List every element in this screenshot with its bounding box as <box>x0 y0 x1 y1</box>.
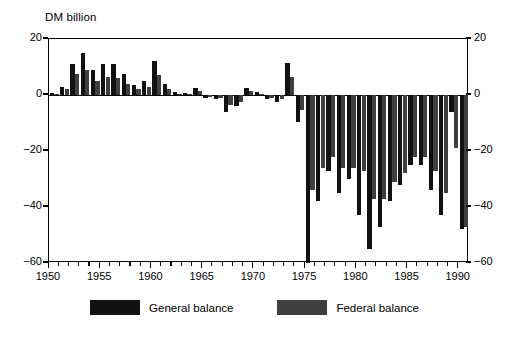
bar <box>136 89 140 95</box>
bar <box>147 87 151 95</box>
x-tick-label: 1975 <box>284 270 324 282</box>
axis-unit-label: DM billion <box>45 11 97 23</box>
legend-item-general: General balance <box>90 300 233 315</box>
chart-figure: DM billion General balance Federal balan… <box>0 0 509 347</box>
x-tick-mark-major <box>406 262 407 268</box>
x-tick-label: 1950 <box>28 270 68 282</box>
x-tick-label: 1985 <box>387 270 427 282</box>
x-tick-mark-minor <box>427 262 428 266</box>
bar <box>351 95 355 168</box>
bar <box>331 95 335 157</box>
y-tick-label-left: 0 <box>8 87 42 99</box>
legend-label-federal: Federal balance <box>336 302 418 314</box>
bar <box>362 95 366 171</box>
x-tick-mark-minor <box>375 262 376 266</box>
x-tick-mark-major <box>48 262 49 268</box>
x-tick-mark-minor <box>242 262 243 266</box>
y-tick-mark-right <box>466 149 471 150</box>
x-tick-label: 1990 <box>438 270 478 282</box>
x-tick-mark-minor <box>191 262 192 266</box>
chart-legend: General balance Federal balance <box>0 300 509 315</box>
y-tick-label-left: −20 <box>8 143 42 155</box>
x-tick-mark-minor <box>283 262 284 266</box>
x-tick-mark-major <box>304 262 305 268</box>
bar <box>228 95 232 105</box>
bar <box>65 89 69 95</box>
y-tick-label-left: 20 <box>8 31 42 43</box>
x-tick-mark-minor <box>211 262 212 266</box>
bar <box>300 95 304 110</box>
x-tick-mark-minor <box>293 262 294 266</box>
bar <box>321 95 325 168</box>
bar <box>454 95 458 148</box>
x-tick-mark-major <box>457 262 458 268</box>
x-tick-mark-minor <box>88 262 89 266</box>
bar <box>372 95 376 199</box>
x-tick-mark-major <box>150 262 151 268</box>
bar <box>341 95 345 168</box>
x-tick-mark-minor <box>58 262 59 266</box>
x-tick-mark-minor <box>160 262 161 266</box>
bar <box>259 94 263 95</box>
x-tick-mark-major <box>355 262 356 268</box>
bar <box>290 77 294 95</box>
y-tick-mark-right <box>466 261 471 262</box>
y-tick-label-right: −40 <box>474 199 508 211</box>
bar <box>310 95 314 190</box>
y-tick-label-right: −60 <box>474 255 508 267</box>
y-tick-mark-left <box>43 37 48 38</box>
y-tick-mark-right <box>466 37 471 38</box>
bar <box>218 95 222 98</box>
bar <box>54 94 58 95</box>
x-tick-label: 1960 <box>130 270 170 282</box>
x-tick-mark-minor <box>334 262 335 266</box>
y-tick-mark-left <box>43 205 48 206</box>
bar <box>433 95 437 171</box>
x-tick-mark-minor <box>416 262 417 266</box>
x-tick-mark-minor <box>119 262 120 266</box>
y-tick-mark-right <box>466 93 471 94</box>
x-tick-mark-major <box>201 262 202 268</box>
x-tick-mark-minor <box>140 262 141 266</box>
x-tick-mark-major <box>252 262 253 268</box>
x-tick-mark-minor <box>78 262 79 266</box>
x-tick-mark-minor <box>170 262 171 266</box>
bar <box>126 84 130 95</box>
x-tick-label: 1980 <box>335 270 375 282</box>
bar <box>464 95 468 227</box>
legend-item-federal: Federal balance <box>277 300 418 315</box>
x-tick-mark-minor <box>345 262 346 266</box>
bar <box>198 91 202 95</box>
bar <box>444 95 448 193</box>
plot-area <box>48 38 468 262</box>
legend-label-general: General balance <box>149 302 233 314</box>
bar <box>249 91 253 95</box>
y-tick-mark-right <box>466 205 471 206</box>
x-tick-mark-minor <box>181 262 182 266</box>
x-tick-mark-minor <box>263 262 264 266</box>
x-tick-mark-minor <box>386 262 387 266</box>
x-tick-mark-minor <box>396 262 397 266</box>
bar <box>413 95 417 157</box>
bar <box>269 95 273 98</box>
bar <box>423 95 427 157</box>
bar <box>167 89 171 95</box>
x-tick-mark-minor <box>232 262 233 266</box>
y-tick-label-right: 0 <box>474 87 508 99</box>
bar <box>177 94 181 95</box>
y-tick-label-left: −40 <box>8 199 42 211</box>
y-tick-label-right: −20 <box>474 143 508 155</box>
legend-swatch-federal-icon <box>277 300 327 315</box>
bar <box>116 78 120 95</box>
x-tick-mark-minor <box>222 262 223 266</box>
x-tick-label: 1965 <box>182 270 222 282</box>
bar <box>392 95 396 182</box>
x-tick-label: 1955 <box>79 270 119 282</box>
x-tick-mark-minor <box>314 262 315 266</box>
bar <box>157 75 161 95</box>
bar <box>280 95 284 99</box>
x-tick-mark-minor <box>109 262 110 266</box>
y-tick-mark-left <box>43 93 48 94</box>
bar-series-container <box>49 39 467 261</box>
legend-swatch-general-icon <box>90 300 140 315</box>
